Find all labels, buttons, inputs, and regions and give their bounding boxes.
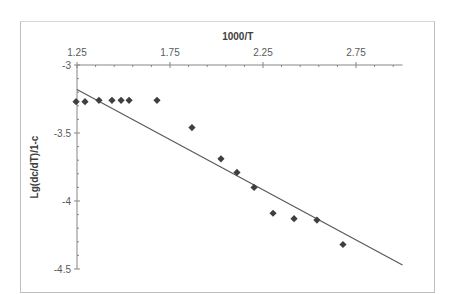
y-tick-label: -4.5 xyxy=(54,264,72,275)
diamond-marker xyxy=(153,97,160,104)
x-tick-label: 1.25 xyxy=(67,47,87,58)
diamond-marker xyxy=(81,98,88,105)
diamond-marker xyxy=(125,97,132,104)
diamond-marker xyxy=(269,210,276,217)
trendline-line xyxy=(77,89,403,264)
x-tick-label: 2.25 xyxy=(253,47,273,58)
diamond-marker xyxy=(108,97,115,104)
x-tick-label: 1.75 xyxy=(160,47,180,58)
y-axis-title: Lg(dc/dT)/1-c xyxy=(29,135,40,198)
diamond-marker xyxy=(250,184,257,191)
x-axis-title: 1000/T xyxy=(222,31,253,42)
x-tick-label: 2.75 xyxy=(346,47,366,58)
data-points xyxy=(72,97,346,248)
diamond-marker xyxy=(117,97,124,104)
diamond-marker xyxy=(72,98,79,105)
y-tick-label: -4 xyxy=(62,196,71,207)
axis-labels: 1.251.752.252.75-3-3.5-4-4.51000/TLg(dc/… xyxy=(29,31,366,275)
diamond-marker xyxy=(217,155,224,162)
diamond-marker xyxy=(188,124,195,131)
diamond-marker xyxy=(290,215,297,222)
trendline xyxy=(77,89,403,264)
y-tick-label: -3.5 xyxy=(54,128,72,139)
scatter-plot: 1.251.752.252.75-3-3.5-4-4.51000/TLg(dc/… xyxy=(0,0,453,294)
y-tick-label: -3 xyxy=(62,60,71,71)
diamond-marker xyxy=(339,241,346,248)
